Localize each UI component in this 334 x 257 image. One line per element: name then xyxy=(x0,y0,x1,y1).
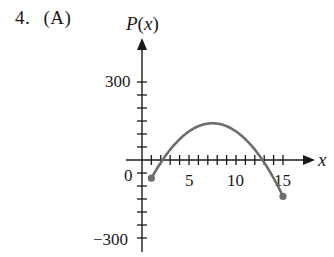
y-axis-arrow-icon xyxy=(137,38,147,50)
chart: P(x) x 300 0 −300 5 10 15 xyxy=(0,0,334,257)
endpoint-end-dot xyxy=(279,193,286,200)
y-axis-title: P(x) xyxy=(125,13,159,35)
y-tick-label-neg300: −300 xyxy=(93,230,128,249)
x-tick-label-10: 10 xyxy=(227,171,244,190)
x-tick-label-15: 15 xyxy=(274,171,291,190)
y-tick-label-0: 0 xyxy=(124,166,133,185)
y-tick-label-300: 300 xyxy=(105,72,131,91)
x-tick-label-5: 5 xyxy=(185,171,194,190)
x-axis-title: x xyxy=(317,149,327,170)
endpoint-start-dot xyxy=(148,175,155,182)
x-axis-arrow-icon xyxy=(303,155,315,165)
